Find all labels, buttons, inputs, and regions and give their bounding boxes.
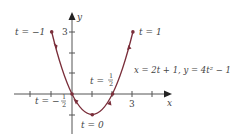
svg-text:t = −: t = − [35,96,59,106]
x-tick-label-3: 3 [129,99,135,109]
point-t-1 [131,30,135,34]
label-t-half: t = 1 2 [90,72,113,88]
svg-text:2: 2 [109,80,113,88]
y-axis-label: y [76,12,83,22]
parametric-plot: 3 x 3 y t = −1 t = 1 t = 1 2 t = [0,0,240,140]
x-axis-arrow-icon [164,91,172,98]
point-t-0 [91,113,95,117]
svg-text:2: 2 [62,101,66,109]
svg-text:1: 1 [62,93,66,101]
point-t-neg-half [70,92,74,96]
label-t-1: t = 1 [139,27,162,37]
label-t-neg-half: t = − 1 2 [35,93,66,109]
svg-text:t =: t = [90,76,104,86]
label-t-neg1: t = −1 [15,27,45,37]
label-t-0: t = 0 [81,120,104,130]
y-tick-label-3: 3 [62,27,68,37]
y-axis: 3 y [62,12,83,134]
equation-label: x = 2t + 1, y = 4t² − 1 [134,65,231,75]
y-axis-arrow-icon [69,12,76,20]
svg-text:1: 1 [109,72,113,80]
point-t-half [111,92,115,96]
point-t-neg1 [50,30,54,34]
x-axis-label: x [167,98,172,108]
